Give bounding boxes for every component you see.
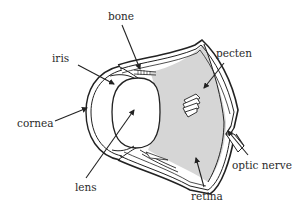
label-iris: iris <box>52 53 69 64</box>
eye-diagram: bone iris pecten cornea lens optic nerve… <box>0 0 304 214</box>
lens-shape <box>112 78 160 148</box>
label-cornea: cornea <box>17 118 53 129</box>
label-bone: bone <box>108 11 134 22</box>
label-pecten: pecten <box>216 48 252 59</box>
cornea-leader <box>55 108 87 121</box>
label-optic-nerve: optic nerve <box>232 160 292 171</box>
label-retina: retina <box>191 191 223 202</box>
eye-illustration <box>0 0 304 214</box>
label-lens: lens <box>75 182 97 193</box>
